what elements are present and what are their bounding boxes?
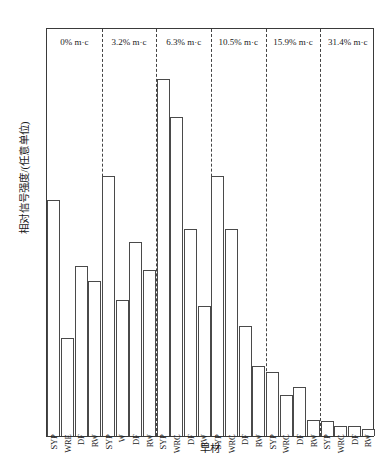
bar — [211, 176, 224, 436]
bar-category-label: SYP — [104, 434, 113, 449]
bar-category-label: DF — [350, 434, 359, 444]
bar-category-label: W — [118, 434, 127, 442]
bar-category-label: DF — [241, 434, 250, 444]
bar — [198, 306, 211, 436]
bar — [266, 372, 279, 436]
bar — [88, 281, 101, 436]
bar-category-label: WRC — [227, 434, 236, 453]
bar-category-label: SYP — [159, 434, 168, 449]
bar-category-label: SYP — [213, 434, 222, 449]
bar — [293, 387, 306, 436]
bar — [225, 229, 238, 436]
bar — [280, 395, 293, 436]
bar-category-label: WRC — [282, 434, 291, 453]
bar — [184, 229, 197, 436]
bar — [157, 79, 170, 436]
bar — [129, 242, 142, 436]
bar — [102, 176, 115, 436]
y-axis-title: 相对信号强度/(任意单位) — [16, 93, 31, 263]
bar — [116, 300, 129, 436]
bar-category-label: WRC — [172, 434, 181, 453]
bar-category-label: DF — [295, 434, 304, 444]
plot-area: 0% m·cSYPWREDFRW3.2% m·cSYPWDFRW6.3% m·c… — [46, 28, 374, 437]
bar-category-label: DF — [131, 434, 140, 444]
group-header-label: 6.3% m·c — [166, 37, 201, 47]
bar-category-label: SYP — [49, 434, 58, 449]
bar — [239, 326, 252, 436]
bar-category-label: RW — [364, 434, 373, 447]
bar-category-label: SYP — [323, 434, 332, 449]
group-separator — [320, 29, 321, 436]
bar-category-label: WRE — [63, 434, 72, 452]
group-header-label: 10.5% m·c — [219, 37, 259, 47]
chart-figure: 相对信号强度/(任意单位) 早材 0% m·cSYPWREDFRW3.2% m·… — [0, 0, 378, 462]
group-header-label: 31.4% m·c — [328, 37, 368, 47]
bar-category-label: DF — [77, 434, 86, 444]
group-header-label: 0% m·c — [60, 37, 88, 47]
group-header-label: 3.2% m·c — [112, 37, 147, 47]
group-header-label: 15.9% m·c — [273, 37, 313, 47]
bar-category-label: RW — [90, 434, 99, 447]
bar-category-label: RW — [200, 434, 209, 447]
bar — [252, 366, 265, 436]
bar-category-label: RW — [145, 434, 154, 447]
bar — [61, 338, 74, 436]
bar-category-label: DF — [186, 434, 195, 444]
bar-category-label: RW — [309, 434, 318, 447]
bar — [170, 117, 183, 436]
bar-category-label: WRC — [336, 434, 345, 453]
bar — [75, 266, 88, 436]
bar-category-label: RW — [254, 434, 263, 447]
bar — [143, 270, 156, 436]
bar — [47, 200, 60, 436]
bar-category-label: SYP — [268, 434, 277, 449]
